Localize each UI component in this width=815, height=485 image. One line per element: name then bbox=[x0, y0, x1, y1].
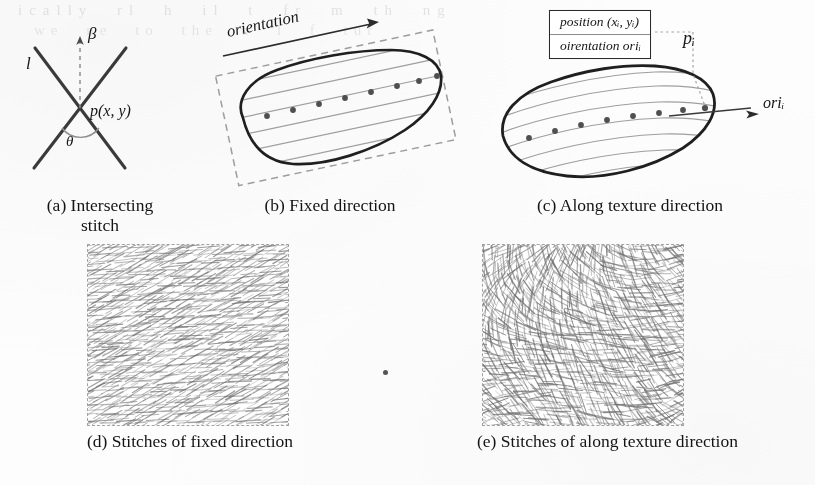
sample-point-group-c bbox=[526, 105, 708, 141]
stitch-stroke bbox=[219, 275, 234, 276]
stitch-stroke bbox=[229, 374, 248, 375]
sample-point bbox=[264, 113, 270, 119]
stitch-stroke bbox=[226, 341, 246, 342]
stitch-stroke bbox=[170, 358, 186, 359]
stitch-stroke bbox=[226, 377, 245, 379]
texture-patch-along-texture bbox=[483, 245, 683, 425]
stitch-stroke bbox=[586, 397, 601, 399]
intersecting-stitch-diagram bbox=[0, 0, 200, 200]
stitch-stroke bbox=[633, 277, 651, 279]
stitch-stroke bbox=[275, 266, 288, 268]
scan-line bbox=[227, 91, 448, 138]
stitch-stroke bbox=[179, 293, 202, 294]
sample-point bbox=[526, 135, 532, 141]
stitch-stroke bbox=[625, 287, 643, 288]
scan-line bbox=[220, 58, 441, 105]
stitch-stroke bbox=[611, 384, 627, 386]
stitch-stroke bbox=[264, 365, 285, 378]
stitch-stroke bbox=[285, 301, 288, 302]
stitch-stroke bbox=[640, 349, 664, 350]
stitch-stroke bbox=[141, 278, 158, 280]
sample-point bbox=[604, 117, 610, 123]
flow-line bbox=[485, 118, 751, 156]
stitch-stroke bbox=[130, 282, 152, 283]
stitch-stroke bbox=[235, 253, 257, 255]
stitch-stroke bbox=[182, 309, 200, 310]
stitch-stroke bbox=[587, 403, 612, 404]
stitch-stroke bbox=[211, 359, 230, 371]
stitch-stroke bbox=[612, 326, 627, 328]
stitch-stroke bbox=[615, 317, 632, 318]
stitch-stroke bbox=[203, 293, 218, 294]
stitch-stroke bbox=[224, 311, 239, 312]
stitch-stroke bbox=[254, 298, 270, 299]
stitch-stroke bbox=[89, 420, 114, 422]
stitch-stroke bbox=[176, 295, 195, 306]
caption-panel-a: (a) Intersecting stitch bbox=[0, 196, 200, 235]
sample-point bbox=[434, 73, 440, 79]
stitch-stroke bbox=[88, 406, 91, 418]
stitch-stroke bbox=[109, 405, 129, 407]
callout-orientation-text: oirentation oriᵢ bbox=[560, 38, 641, 53]
stitch-stroke bbox=[273, 324, 288, 325]
stitch-stroke bbox=[215, 260, 234, 261]
stitch-stroke bbox=[88, 278, 108, 279]
stitch-stroke bbox=[88, 258, 98, 259]
stitch-stroke bbox=[606, 245, 607, 256]
stitch-stroke bbox=[249, 343, 262, 351]
stitch-stroke bbox=[180, 335, 202, 336]
stitch-stroke bbox=[180, 372, 196, 373]
stitch-stroke bbox=[287, 263, 288, 264]
stitch-stroke bbox=[483, 371, 485, 374]
stitch-stroke bbox=[568, 266, 569, 288]
panel-a-intersecting-stitch: l β p(x, y) θ bbox=[0, 0, 200, 200]
callout-row-orientation: oirentation oriᵢ bbox=[550, 35, 650, 58]
stitch-texture-along bbox=[483, 245, 683, 425]
stitch-stroke bbox=[287, 365, 288, 367]
stitch-stroke bbox=[96, 323, 116, 324]
stitch-stroke bbox=[264, 340, 288, 341]
caption-panel-d: (d) Stitches of fixed direction bbox=[20, 432, 360, 452]
stitch-stroke bbox=[177, 262, 201, 264]
stitch-stroke bbox=[277, 309, 288, 311]
stitch-stroke bbox=[125, 286, 147, 287]
stitch-stroke bbox=[171, 421, 188, 422]
stitch-stroke bbox=[682, 349, 683, 352]
stitch-stroke bbox=[545, 397, 554, 415]
sample-point bbox=[394, 83, 400, 89]
stitch-stroke bbox=[188, 422, 204, 423]
stitch-stroke bbox=[257, 250, 276, 251]
stitch-stroke bbox=[135, 300, 155, 301]
stitch-stroke bbox=[211, 374, 231, 375]
stitch-stroke bbox=[88, 245, 90, 246]
stitch-stroke bbox=[88, 295, 98, 296]
stitch-stroke bbox=[189, 268, 211, 269]
stitch-stroke bbox=[230, 334, 251, 345]
stitch-stroke bbox=[88, 295, 89, 307]
stitch-stroke bbox=[144, 396, 163, 398]
stitch-stroke bbox=[189, 355, 210, 356]
stitch-stroke bbox=[665, 343, 682, 344]
stitch-stroke bbox=[88, 371, 98, 372]
stitch-stroke bbox=[609, 245, 610, 251]
stitch-stroke bbox=[212, 254, 232, 255]
caption-panel-b: (b) Fixed direction bbox=[210, 196, 450, 216]
stitch-stroke bbox=[286, 420, 288, 422]
stitch-stroke bbox=[231, 327, 248, 328]
stitch-point-attribute-callout: position (xᵢ, yᵢ) oirentation oriᵢ bbox=[549, 10, 651, 59]
stitch-stroke bbox=[107, 255, 123, 256]
stitch-stroke bbox=[172, 376, 188, 386]
stitch-stroke bbox=[191, 260, 211, 261]
stitch-stroke bbox=[287, 411, 288, 412]
stitch-stroke bbox=[106, 271, 123, 272]
stitch-stroke bbox=[225, 396, 244, 397]
stitch-stroke bbox=[217, 322, 234, 324]
stitch-stroke bbox=[621, 390, 640, 391]
stitch-stroke bbox=[238, 375, 254, 376]
scan-line-group bbox=[216, 41, 458, 186]
stitch-stroke bbox=[524, 344, 541, 345]
stitch-stroke bbox=[241, 274, 256, 275]
stitch-stroke bbox=[220, 386, 237, 387]
sample-point bbox=[656, 110, 662, 116]
stitch-stroke bbox=[246, 276, 264, 277]
